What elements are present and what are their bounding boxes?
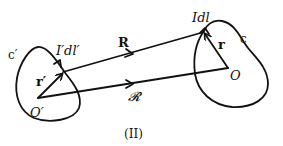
left-curve-label: c′ [8, 48, 18, 62]
right-curve-label: c [240, 32, 247, 46]
script-R-label: 𝓡 [128, 89, 143, 104]
left-current-element-label: I′dl′ [55, 43, 80, 58]
left-origin-label: O′ [30, 105, 44, 120]
left-loop-curve [16, 47, 80, 121]
right-position-vector-label: r [218, 37, 225, 52]
right-current-element-label: Idl [191, 10, 210, 25]
separation-vector-R [63, 32, 204, 72]
R-label: R [118, 35, 129, 50]
left-position-vector-label: r′ [36, 74, 47, 89]
magnetic-circuits-diagram: c′ I′dl′ r′ O′ R 𝓡 Idl r c O (II) [0, 0, 283, 146]
right-origin-label: O [230, 68, 241, 83]
figure-caption: (II) [124, 127, 143, 141]
